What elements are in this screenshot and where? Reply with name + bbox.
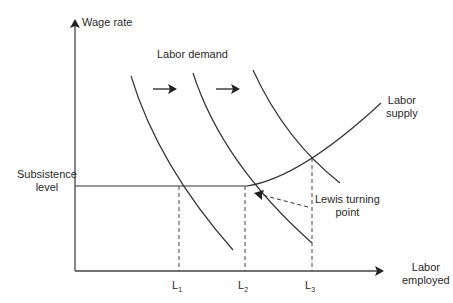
demand-shift-arrow-2-icon	[216, 84, 240, 94]
demand-shift-arrow-1-icon	[153, 84, 177, 94]
x-tick-l2: L2	[238, 279, 248, 296]
y-axis	[70, 19, 80, 271]
x-tick-l1-subscript: 1	[178, 286, 182, 293]
labor-demand-curve-3	[253, 70, 340, 183]
subsistence-label-line2: level	[17, 181, 77, 194]
labor-supply-curve	[75, 103, 381, 186]
lewis-model-diagram	[0, 0, 453, 303]
labor-demand-curve-2	[193, 73, 312, 243]
labor-supply-label-line2: supply	[386, 107, 418, 120]
lewis-label-line1: Lewis turning	[315, 193, 380, 206]
y-axis-label: Wage rate	[82, 16, 132, 29]
subsistence-label-line1: Subsistence	[17, 168, 77, 181]
x-axis-label-line1: Labor	[402, 261, 450, 274]
lewis-label-line2: point	[315, 206, 380, 219]
labor-supply-label: Labor supply	[386, 94, 418, 120]
x-tick-l2-subscript: 2	[244, 286, 248, 293]
lewis-turning-point-label: Lewis turning point	[315, 193, 380, 219]
x-tick-l3-subscript: 3	[311, 286, 315, 293]
subsistence-level-label: Subsistence level	[17, 168, 77, 194]
x-tick-l1: L1	[172, 279, 182, 296]
x-tick-l3: L3	[305, 279, 315, 296]
labor-demand-label: Labor demand	[157, 48, 228, 61]
x-axis-label-line2: employed	[402, 274, 450, 287]
lewis-turning-point-arrow-icon	[254, 190, 308, 207]
labor-demand-curve-1	[131, 76, 233, 250]
labor-supply-label-line1: Labor	[386, 94, 418, 107]
x-axis	[75, 266, 384, 276]
x-axis-label: Labor employed	[402, 261, 450, 287]
